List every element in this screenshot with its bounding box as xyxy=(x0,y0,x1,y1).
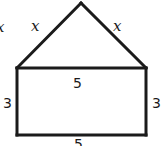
geometry-figure: x x x 5 3 3 5 xyxy=(0,0,164,146)
label-5-shared-base: 5 xyxy=(73,76,82,90)
triangle-right-slant-line xyxy=(81,3,146,68)
label-x-left-slant: x xyxy=(31,19,39,34)
label-5-bottom-side: 5 xyxy=(74,137,83,146)
label-3-right-side: 3 xyxy=(152,96,161,110)
triangle-left-slant-line xyxy=(17,3,81,68)
label-x-clipped-left-edge: x xyxy=(0,20,4,35)
figure-drawing xyxy=(0,0,164,146)
label-x-right-slant: x xyxy=(113,19,121,34)
label-3-left-side: 3 xyxy=(3,96,12,110)
